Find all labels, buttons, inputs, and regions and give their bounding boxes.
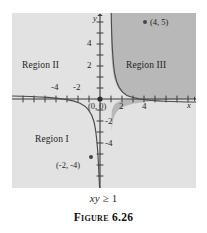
- inequality-rhs: 1: [112, 192, 118, 204]
- y-tick-label-4: 4: [87, 39, 92, 48]
- x-tick-label-4: 4: [142, 102, 147, 111]
- point-label-minus2-minus4: (-2, -4): [56, 161, 80, 170]
- inequality-expression: xy≥1: [0, 192, 207, 204]
- y-tick-label-minus-2: -2: [105, 117, 113, 126]
- point-marker-minus2-minus4: [89, 155, 93, 159]
- plot-area: Region II Region III Region I -4 -2 2 4 …: [12, 13, 196, 188]
- figure-container: Region II Region III Region I -4 -2 2 4 …: [0, 0, 207, 233]
- annotation-region-two: Region II: [22, 61, 59, 71]
- x-tick-label-2: 2: [119, 102, 124, 111]
- figure-caption: Figure 6.26: [0, 211, 207, 223]
- inequality-relation-symbol: ≥: [103, 192, 109, 204]
- annotation-region-one: Region I: [35, 135, 69, 145]
- x-tick-label-minus-2: -2: [73, 83, 81, 92]
- point-marker-4-5: [143, 20, 147, 24]
- y-tick-label-minus-4: -4: [105, 139, 113, 148]
- y-axis-arrow: [97, 14, 103, 16]
- y-tick-label-2: 2: [87, 61, 92, 70]
- annotation-region-three: Region III: [126, 61, 166, 71]
- y-axis-label: y: [93, 14, 97, 23]
- origin-label: (0, 0): [88, 102, 106, 111]
- x-tick-label-minus-4: -4: [51, 83, 59, 92]
- x-axis-label: x: [187, 101, 191, 110]
- point-label-4-5: (4, 5): [150, 18, 168, 27]
- inequality-lhs: xy: [90, 192, 100, 204]
